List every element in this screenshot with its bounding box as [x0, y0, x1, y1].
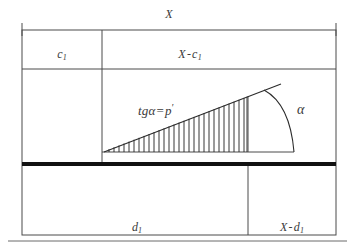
label-c1-segment: c1	[57, 48, 67, 62]
slope-line	[104, 84, 281, 152]
label-x-minus-d1-segment: X-d1	[280, 221, 304, 235]
angle-arc	[264, 90, 294, 152]
heavy-baseline-bar	[22, 162, 336, 166]
label-x-minus-c1-segment: X-c1	[178, 48, 201, 62]
label-tangent-formula: tgα=p′	[138, 103, 174, 117]
label-total-width: X	[165, 8, 173, 20]
label-d1-segment: d1	[132, 221, 142, 235]
label-angle-alpha: α	[297, 103, 305, 117]
diagram-canvas	[0, 0, 355, 249]
